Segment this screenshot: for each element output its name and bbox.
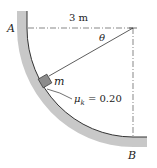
point-b-label: B [128,150,136,161]
friction-subscript: k [81,99,85,107]
diagram-canvas [0,0,157,168]
mass-label: m [54,76,64,87]
radius-label: 3 m [69,13,88,23]
point-a-label: A [7,23,15,34]
friction-coefficient-label: μk = 0.20 [74,94,122,107]
friction-value: = 0.20 [88,93,122,104]
angle-label: θ [99,33,105,43]
radius-line [49,28,133,76]
